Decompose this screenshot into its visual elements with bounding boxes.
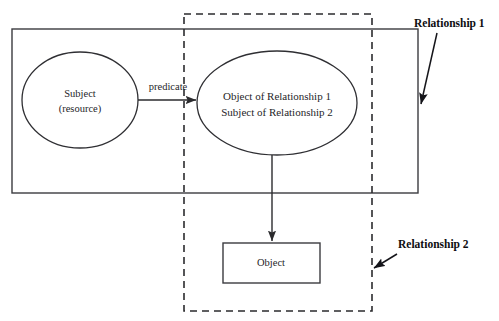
subject-node-label-line-1: Subject <box>64 88 96 99</box>
relationship-2-annotation-pointer <box>374 254 397 268</box>
statement-node-label-line-2: Subject of Relationship 2 <box>221 106 333 118</box>
statement-node-label-line-1: Object of Relationship 1 <box>223 90 331 102</box>
object-node-label: Object <box>257 257 285 268</box>
subject-node-label-line-2: (resource) <box>59 103 102 115</box>
relationship-2-annotation: Relationship 2 <box>374 238 469 268</box>
relationship-2-annotation-label: Relationship 2 <box>398 238 469 251</box>
statement-node-shape <box>197 51 357 155</box>
relationship-1-annotation-pointer <box>421 33 437 104</box>
relationship-1-annotation: Relationship 1 <box>414 17 485 104</box>
subject-node-shape <box>22 52 138 148</box>
object-node: Object <box>223 243 320 283</box>
statement-node: Object of Relationship 1 Subject of Rela… <box>197 51 357 155</box>
diagram-canvas: predicate Subject (resource) Object of R… <box>0 0 499 321</box>
predicate-edge-label: predicate <box>149 81 188 92</box>
diagram-root: predicate Subject (resource) Object of R… <box>0 0 499 321</box>
relationship-1-annotation-label: Relationship 1 <box>414 17 485 30</box>
subject-node: Subject (resource) <box>22 52 138 148</box>
